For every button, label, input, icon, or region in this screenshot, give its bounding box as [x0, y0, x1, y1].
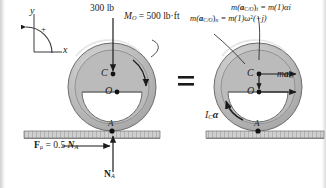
- right-point-label-A: A: [254, 119, 260, 128]
- moment-inertia-alpha: α: [213, 109, 219, 120]
- friction-force-label: Fμ = 0.5 NA: [34, 141, 78, 151]
- tangential-co-subscript: C/O: [244, 6, 253, 12]
- left-ground-surface: [24, 131, 160, 139]
- normal-rhs-pre: = m(1)ω: [218, 13, 250, 23]
- left-point-label-A: A: [108, 119, 114, 128]
- axis-label-x: x: [63, 45, 67, 55]
- moment-M0-label: MO = 500 lb·ft: [124, 12, 180, 22]
- mass-accel-m: m: [277, 69, 284, 79]
- left-point-label-O: O: [105, 86, 112, 96]
- figure-graphics: [0, 0, 326, 188]
- axis-label-y: y: [30, 6, 34, 16]
- figure-canvas: y x + 300 lb MO = 500 lb·ft C O A Fμ = 0…: [0, 0, 326, 188]
- normal-m-open: m(: [190, 13, 199, 23]
- tangential-m-open: m(: [231, 2, 240, 12]
- normal-co-subscript: C/O: [203, 17, 212, 23]
- axis-sense-plus-label: +: [41, 25, 46, 34]
- moment-value: = 500 lb·ft: [136, 11, 179, 21]
- mass-accel-subscript: O: [289, 72, 294, 79]
- mass-accel-label: maO: [277, 70, 293, 80]
- tangential-accel-label: m(aC/O)t = m(1)αi: [231, 3, 291, 13]
- normal-rhs-post: (−j): [253, 13, 267, 23]
- moment-inertia-label: ICα: [205, 110, 218, 121]
- moment-symbol: M: [124, 11, 132, 21]
- force-300lb-label: 300 lb: [90, 4, 114, 14]
- normal-accel-label: m(aC/O)n = m(1)ω2(−j): [190, 14, 267, 24]
- normal-force-subscript: A: [111, 172, 115, 179]
- normal-force-symbol: N: [104, 169, 111, 179]
- left-point-label-C: C: [101, 68, 108, 78]
- tangential-rhs: = m(1)αi: [258, 2, 291, 12]
- equals-sign-graphic: [178, 76, 194, 86]
- friction-normal-subscript: A: [74, 143, 78, 150]
- friction-force-equals: = 0.5: [43, 140, 67, 150]
- normal-force-label: NA: [104, 170, 115, 180]
- right-point-label-O: O: [247, 86, 254, 96]
- right-point-label-C: C: [247, 68, 254, 78]
- right-ground-surface: [206, 131, 324, 139]
